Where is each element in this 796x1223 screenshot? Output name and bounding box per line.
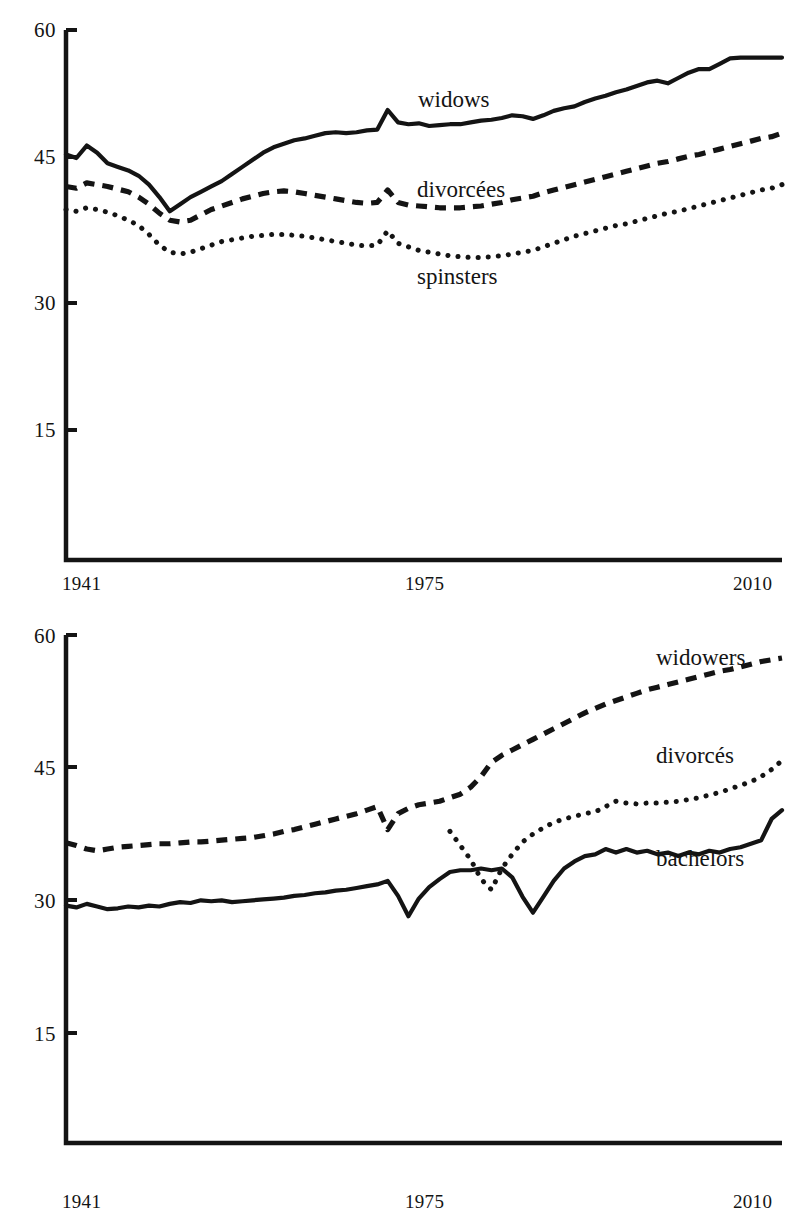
series-label-widowers: widowers <box>656 646 745 669</box>
chart-panel-men: 60 45 30 15 1941 1975 2010 widowers divo… <box>0 608 796 1223</box>
series-label-spinsters: spinsters <box>417 265 498 288</box>
x-tick-label-1975-men: 1975 <box>405 1192 444 1211</box>
x-tick-label-2010-women: 2010 <box>733 574 772 593</box>
series-label-divorces: divorcés <box>656 744 734 767</box>
y-tick-label-15-women: 15 <box>14 420 56 441</box>
x-tick-label-1941-men: 1941 <box>62 1192 101 1211</box>
men-plot-area <box>0 608 796 1223</box>
y-tick-label-60-men: 60 <box>14 626 56 647</box>
y-tick-label-45-men: 45 <box>14 758 56 779</box>
series-label-divorcees: divorcées <box>417 178 505 201</box>
x-tick-label-1941-women: 1941 <box>62 574 101 593</box>
y-tick-label-60-women: 60 <box>14 20 56 41</box>
y-tick-label-30-men: 30 <box>14 891 56 912</box>
x-tick-label-2010-men: 2010 <box>733 1192 772 1211</box>
series-label-bachelors: bachelors <box>656 847 744 870</box>
x-tick-label-1975-women: 1975 <box>405 574 444 593</box>
two-panel-line-chart-figure: 60 45 30 15 1941 1975 2010 widows divorc… <box>0 0 796 1223</box>
women-plot-area <box>0 0 796 600</box>
series-label-widows: widows <box>418 88 490 111</box>
y-tick-label-30-women: 30 <box>14 293 56 314</box>
y-tick-label-15-men: 15 <box>14 1024 56 1045</box>
y-tick-label-45-women: 45 <box>14 147 56 168</box>
chart-panel-women: 60 45 30 15 1941 1975 2010 widows divorc… <box>0 0 796 600</box>
